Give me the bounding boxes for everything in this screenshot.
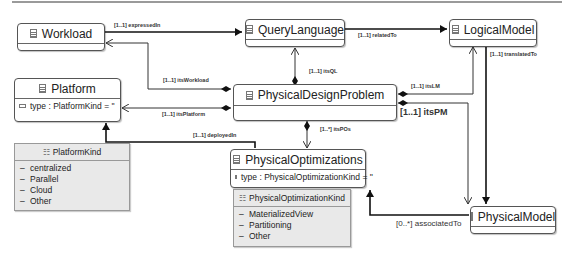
enum-literal[interactable]: –Cloud [15, 185, 129, 196]
enum-literal[interactable]: –Other [234, 231, 350, 242]
label-related-to: [1..1] relatedTo [358, 32, 397, 38]
label-its-pm: [1..1] itsPM [400, 107, 448, 117]
class-platform[interactable]: Platform type : PlatformKind = '' [14, 78, 121, 122]
class-icon [471, 212, 473, 221]
class-name: PhysicalDesignProblem [258, 88, 385, 102]
label-associated-to: [0..*] associatedTo [396, 219, 461, 228]
label-its-pos: [1..*] itsPOs [320, 126, 351, 132]
class-logical-model[interactable]: LogicalModel [449, 19, 537, 47]
enum-literal[interactable]: –Partitioning [234, 220, 350, 231]
class-icon [233, 155, 240, 164]
class-workload[interactable]: Workload [17, 23, 105, 51]
enum-icon: ☷ [239, 194, 246, 203]
enum-literal[interactable]: –Parallel [15, 174, 129, 185]
class-name: Workload [42, 27, 92, 41]
label-its-ql: [1..1] itsQL [309, 68, 337, 74]
class-icon [246, 25, 253, 34]
enum-physical-optimization-kind[interactable]: ☷PhysicalOptimizationKind –MaterializedV… [233, 189, 351, 247]
attribute-type[interactable]: type : PlatformKind = '' [15, 99, 120, 113]
class-icon [452, 25, 459, 34]
class-query-language[interactable]: QueryLanguage [245, 19, 345, 47]
enum-literal[interactable]: –MaterializedView [234, 209, 350, 220]
label-expressed-in: [1..1] expressedIn [114, 22, 160, 28]
class-name: Platform [51, 82, 96, 96]
class-physical-optimizations[interactable]: PhysicalOptimizations type : PhysicalOpt… [230, 149, 366, 188]
enum-literal[interactable]: –centralized [15, 163, 129, 174]
class-name: PhysicalModel [478, 210, 555, 224]
class-icon [246, 91, 253, 100]
enum-icon: ☷ [43, 148, 50, 157]
label-its-platform: [1..1] itsPlatform [162, 111, 205, 117]
class-name: QueryLanguage [258, 23, 344, 37]
class-icon [30, 29, 37, 38]
label-deployed-in: [1..1] deployedIn [193, 132, 236, 138]
class-physical-model[interactable]: PhysicalModel [470, 206, 556, 234]
attribute-icon [235, 175, 237, 179]
class-physical-design-problem[interactable]: PhysicalDesignProblem [233, 84, 397, 121]
class-name: LogicalModel [464, 23, 535, 37]
label-translated-to: [1..1] translatedTo [490, 51, 537, 57]
enum-platform-kind[interactable]: ☷PlatformKind –centralized –Parallel –Cl… [14, 143, 130, 211]
label-its-workload: [1..1] itsWorkload [163, 77, 209, 83]
label-its-lm: [1..1] itsLM [411, 83, 440, 89]
class-name: PhysicalOptimizations [245, 153, 362, 167]
class-icon [39, 84, 46, 93]
enum-literal[interactable]: –Other [15, 196, 129, 207]
attribute-icon [19, 104, 26, 108]
attribute-type[interactable]: type : PhysicalOptimizationKind = '' [231, 170, 365, 184]
